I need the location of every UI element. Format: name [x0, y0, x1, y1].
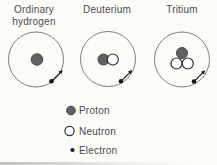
- legend-label-proton: Proton: [79, 105, 110, 116]
- atom-label-ordinary-hydrogen-line1: Ordinary: [14, 4, 54, 15]
- isotope-diagram-canvas: Ordinary hydrogen Deuterium Tritium: [0, 0, 217, 165]
- atom-deuterium: Deuterium: [81, 4, 136, 87]
- atom-label-deuterium: Deuterium: [83, 4, 131, 15]
- proton-marker-icon: [67, 106, 76, 115]
- atom-tritium: Tritium: [155, 4, 210, 87]
- neutron: [171, 58, 182, 69]
- legend: Proton Neutron Electron: [65, 105, 117, 156]
- isotope-diagram: Ordinary hydrogen Deuterium Tritium: [0, 0, 217, 165]
- neutron: [182, 58, 193, 69]
- electron-marker-icon: [70, 148, 74, 152]
- electron-with-arrow: [49, 70, 63, 84]
- neutron-marker-icon: [65, 126, 74, 135]
- legend-label-electron: Electron: [79, 145, 117, 156]
- electron-with-arrow: [119, 70, 133, 84]
- page-edge-shadow: [0, 162, 217, 165]
- proton: [31, 54, 43, 66]
- legend-item-proton: Proton: [67, 105, 110, 116]
- atom-label-tritium: Tritium: [166, 4, 198, 15]
- proton: [177, 48, 188, 59]
- atom-label-ordinary-hydrogen-line2: hydrogen: [12, 16, 55, 27]
- legend-label-neutron: Neutron: [79, 126, 116, 137]
- legend-item-electron: Electron: [70, 145, 117, 156]
- orbit-circle: [155, 32, 210, 87]
- atom-ordinary-hydrogen: Ordinary hydrogen: [9, 4, 64, 87]
- neutron: [107, 54, 118, 65]
- legend-item-neutron: Neutron: [65, 126, 116, 137]
